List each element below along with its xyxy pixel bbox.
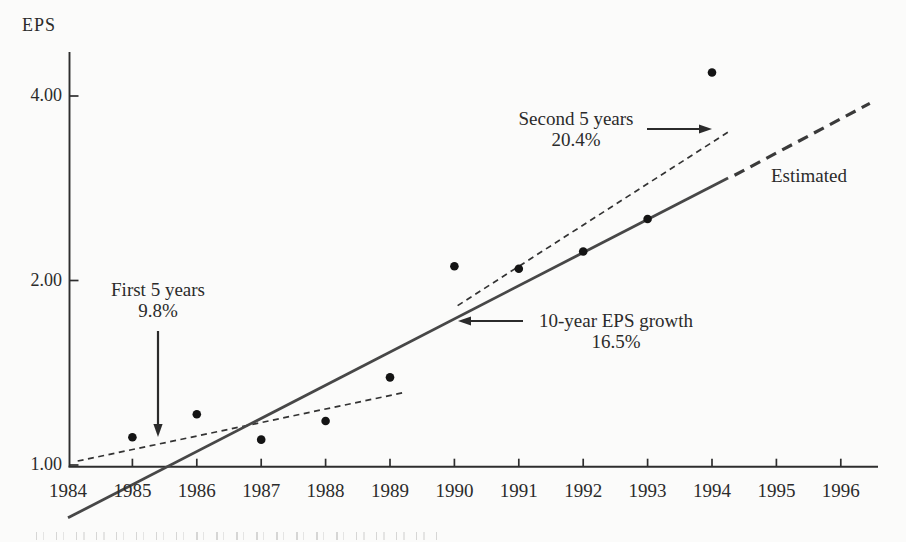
- annotation-ten-year-growth-rate: 16.5%: [528, 331, 704, 352]
- y-tick-label: 2.00: [18, 270, 62, 291]
- x-tick-label: 1994: [680, 480, 744, 502]
- x-tick-label: 1990: [422, 480, 486, 502]
- data-point-1987: [257, 435, 266, 444]
- annotation-first-5-years: First 5 years 9.8%: [87, 279, 229, 321]
- data-point-1992: [579, 247, 588, 256]
- annotation-second-5-years-label: Second 5 years: [505, 108, 647, 129]
- annotation-first-5-years-rate: 9.8%: [87, 300, 229, 321]
- data-point-1986: [193, 410, 202, 419]
- data-point-1993: [643, 215, 652, 224]
- x-tick-label: 1987: [229, 480, 293, 502]
- book-page: EPS 1.002.004.00 19841985198619871988198…: [0, 0, 906, 542]
- annotation-estimated: Estimated: [771, 165, 891, 186]
- x-tick-label: 1996: [809, 480, 873, 502]
- second-5-years-arrow-head: [699, 124, 712, 133]
- annotation-second-5-years-rate: 20.4%: [505, 129, 647, 150]
- data-point-1989: [386, 373, 395, 382]
- annotation-ten-year-growth-label: 10-year EPS growth: [528, 310, 704, 331]
- x-tick-label: 1989: [358, 480, 422, 502]
- cutoff-text-fragment: [36, 532, 438, 540]
- trend-line-second-5-years: [458, 130, 732, 306]
- x-tick-label: 1988: [294, 480, 358, 502]
- x-tick-label: 1995: [744, 480, 808, 502]
- y-tick-label: 1.00: [18, 454, 62, 475]
- annotation-second-5-years: Second 5 years 20.4%: [505, 108, 647, 150]
- annotation-first-5-years-label: First 5 years: [87, 279, 229, 300]
- x-tick-label: 1986: [165, 480, 229, 502]
- ten-year-growth-arrow-head: [458, 316, 471, 325]
- trend-line-first-5-years: [78, 392, 406, 461]
- x-tick-label: 1993: [616, 480, 680, 502]
- annotation-ten-year-growth: 10-year EPS growth 16.5%: [528, 310, 704, 352]
- y-tick-label: 4.00: [18, 85, 62, 106]
- chart-canvas: [0, 0, 906, 542]
- y-axis-title: EPS: [22, 15, 56, 36]
- data-point-1994: [708, 68, 717, 77]
- x-tick-label: 1992: [551, 480, 615, 502]
- eps-semilog-chart: EPS 1.002.004.00 19841985198619871988198…: [0, 0, 906, 542]
- x-tick-label: 1991: [487, 480, 551, 502]
- data-point-1988: [321, 417, 330, 426]
- data-point-1991: [515, 264, 524, 273]
- data-point-1990: [450, 262, 459, 271]
- data-point-1985: [128, 433, 137, 442]
- first-5-years-arrow-head: [153, 424, 162, 437]
- x-tick-label: 1985: [100, 480, 164, 502]
- x-tick-label: 1984: [36, 480, 100, 502]
